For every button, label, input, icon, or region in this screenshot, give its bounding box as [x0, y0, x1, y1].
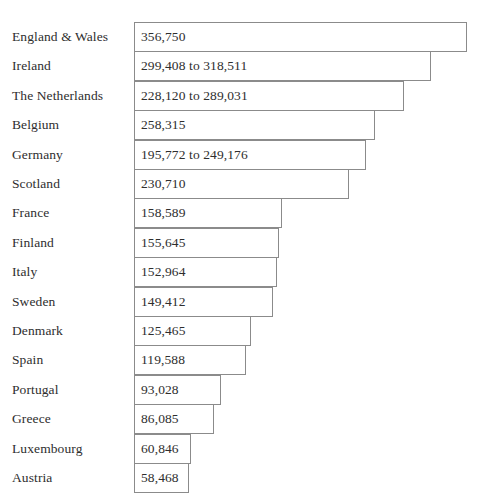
- bar-value-label: 119,588: [141, 345, 185, 375]
- bar-row: Scotland230,710: [0, 169, 491, 199]
- category-label: France: [12, 198, 128, 228]
- category-label: Portugal: [12, 375, 128, 405]
- bar-row: Austria58,468: [0, 463, 491, 493]
- category-label: Greece: [12, 404, 128, 434]
- bar-value-label: 258,315: [141, 110, 186, 140]
- category-label: Italy: [12, 257, 128, 287]
- bar-value-label: 58,468: [141, 463, 179, 493]
- bar-row: Italy152,964: [0, 257, 491, 287]
- bar-value-label: 195,772 to 249,176: [141, 140, 248, 170]
- category-label: England & Wales: [12, 22, 128, 52]
- bar-container: 299,408 to 318,511: [134, 51, 431, 81]
- bar-container: 60,846: [134, 434, 191, 464]
- bar-value-label: 93,028: [141, 375, 179, 405]
- bar-container: 86,085: [134, 404, 214, 434]
- bar-container: 119,588: [134, 345, 246, 375]
- bar-value-label: 86,085: [141, 404, 179, 434]
- bar-row: Luxembourg60,846: [0, 434, 491, 464]
- bar-row: Germany195,772 to 249,176: [0, 140, 491, 170]
- bar-value-label: 230,710: [141, 169, 186, 199]
- bar-container: 258,315: [134, 110, 375, 140]
- bar-container: 152,964: [134, 257, 277, 287]
- bar-row: Finland155,645: [0, 228, 491, 258]
- bar-value-label: 125,465: [141, 316, 186, 346]
- bar-value-label: 152,964: [141, 257, 186, 287]
- category-label: Belgium: [12, 110, 128, 140]
- bar-container: 155,645: [134, 228, 279, 258]
- bar-row: France158,589: [0, 198, 491, 228]
- category-label: Spain: [12, 345, 128, 375]
- category-label: Austria: [12, 463, 128, 493]
- bar-segment-range-extension: [316, 140, 366, 170]
- bar-row: The Netherlands228,120 to 289,031: [0, 81, 491, 111]
- bar-container: 228,120 to 289,031: [134, 81, 404, 111]
- bar-row: Denmark125,465: [0, 316, 491, 346]
- bar-row: Sweden149,412: [0, 287, 491, 317]
- bar-container: 93,028: [134, 375, 221, 405]
- bar-segment-range-extension: [412, 51, 431, 81]
- bar-value-label: 356,750: [141, 22, 186, 52]
- bar-container: 125,465: [134, 316, 251, 346]
- bar-value-label: 60,846: [141, 434, 179, 464]
- category-label: Scotland: [12, 169, 128, 199]
- bar-row: Spain119,588: [0, 345, 491, 375]
- category-label: The Netherlands: [12, 81, 128, 111]
- category-label: Germany: [12, 140, 128, 170]
- bar-container: 58,468: [134, 463, 189, 493]
- bar-chart-plot-area: England & Wales356,750Ireland299,408 to …: [0, 0, 491, 501]
- category-label: Denmark: [12, 316, 128, 346]
- bar-value-label: 155,645: [141, 228, 186, 258]
- bar-container: 230,710: [134, 169, 349, 199]
- bar-row: Portugal93,028: [0, 375, 491, 405]
- bar-container: 149,412: [134, 287, 273, 317]
- category-label: Finland: [12, 228, 128, 258]
- bar-container: 356,750: [134, 22, 467, 52]
- bar-value-label: 299,408 to 318,511: [141, 51, 247, 81]
- chart-root: England & Wales356,750Ireland299,408 to …: [0, 0, 491, 501]
- bar-row: Greece86,085: [0, 404, 491, 434]
- bar-row: Belgium258,315: [0, 110, 491, 140]
- bar-container: 195,772 to 249,176: [134, 140, 366, 170]
- bar-container: 158,589: [134, 198, 282, 228]
- bar-row: England & Wales356,750: [0, 22, 491, 52]
- category-label: Ireland: [12, 51, 128, 81]
- bar-segment-range-extension: [346, 81, 404, 111]
- bar-value-label: 228,120 to 289,031: [141, 81, 248, 111]
- category-label: Sweden: [12, 287, 128, 317]
- bar-value-label: 158,589: [141, 198, 186, 228]
- category-label: Luxembourg: [12, 434, 128, 464]
- bar-value-label: 149,412: [141, 287, 186, 317]
- bar-row: Ireland299,408 to 318,511: [0, 51, 491, 81]
